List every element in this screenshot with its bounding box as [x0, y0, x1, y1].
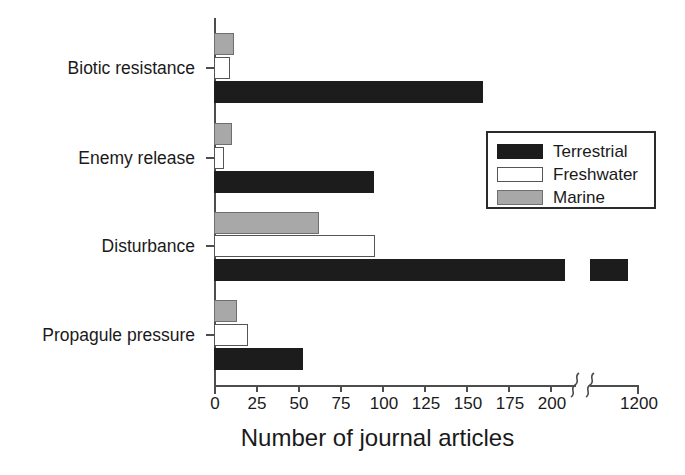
x-tick-50: [298, 385, 300, 392]
y-label-propagule-pressure: Propagule pressure: [42, 325, 195, 345]
bar-enemy-release-freshwater: [214, 147, 224, 169]
x-ticklabel-175: 175: [496, 394, 524, 413]
bar-disturbance-terrestrial: [214, 259, 565, 281]
x-ticklabel-25: 25: [248, 394, 267, 413]
legend-swatch-terrestrial-icon: [497, 144, 543, 159]
bar-propagule-pressure-terrestrial: [214, 348, 303, 370]
x-ticklabel-200: 200: [538, 394, 566, 413]
x-tick-200: [550, 385, 552, 392]
axis-break-left-icon: [568, 372, 584, 398]
legend-item-terrestrial: Terrestrial: [497, 140, 654, 162]
legend-item-freshwater: Freshwater: [497, 163, 654, 185]
bar-propagule-pressure-marine: [214, 300, 237, 322]
x-ticklabel-150: 150: [454, 394, 482, 413]
bar-biotic-resistance-freshwater: [214, 57, 230, 79]
x-axis-title: Number of journal articles: [0, 424, 685, 452]
x-tick-75: [340, 385, 342, 392]
legend-item-marine: Marine: [497, 186, 654, 208]
x-ticklabel-1200: 1200: [620, 394, 658, 413]
x-tick-100: [382, 385, 384, 392]
x-tick-175: [508, 385, 510, 392]
x-ticklabel-100: 100: [370, 394, 398, 413]
x-ticklabel-50: 50: [290, 394, 309, 413]
bar-enemy-release-terrestrial: [214, 171, 374, 193]
bar-enemy-release-marine: [214, 123, 232, 145]
x-tick-0: [214, 385, 216, 394]
bar-disturbance-terrestrial-continued: [590, 259, 628, 281]
y-label-enemy-release: Enemy release: [78, 148, 195, 168]
x-tick-1200: [637, 385, 639, 394]
y-label-biotic-resistance: Biotic resistance: [68, 58, 195, 78]
x-tick-125: [424, 385, 426, 392]
bar-disturbance-freshwater: [214, 235, 375, 257]
x-ticklabel-75: 75: [332, 394, 351, 413]
bar-propagule-pressure-freshwater: [214, 324, 248, 346]
legend-label-freshwater: Freshwater: [553, 165, 638, 184]
bar-biotic-resistance-marine: [214, 33, 234, 55]
bar-chart-figure: 0 25 50 75 100 125 150 175 200 1200 Biot…: [0, 0, 685, 475]
x-ticklabel-125: 125: [412, 394, 440, 413]
legend-label-marine: Marine: [553, 188, 605, 207]
x-tick-150: [466, 385, 468, 392]
bar-disturbance-marine: [214, 212, 319, 234]
axis-break-right-icon: [583, 372, 599, 398]
bar-biotic-resistance-terrestrial: [214, 81, 483, 103]
x-tick-25: [256, 385, 258, 392]
legend-swatch-marine-icon: [497, 190, 543, 205]
x-axis-line-left: [214, 385, 576, 387]
chart-legend: Terrestrial Freshwater Marine: [486, 131, 656, 209]
x-ticklabel-0: 0: [210, 394, 219, 413]
y-label-disturbance: Disturbance: [102, 236, 195, 256]
legend-label-terrestrial: Terrestrial: [553, 142, 628, 161]
legend-swatch-freshwater-icon: [497, 167, 543, 182]
